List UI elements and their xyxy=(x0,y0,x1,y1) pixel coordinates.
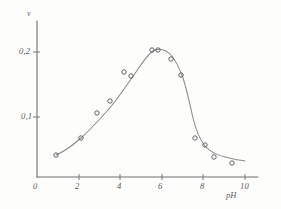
plot-canvas xyxy=(0,0,281,209)
data-point xyxy=(108,99,112,103)
x-tick-label-6: 6 xyxy=(158,181,162,191)
fitted-curve xyxy=(56,49,245,161)
ph-rate-profile-figure: v pH 0,2 0,1 0 2 4 6 8 10 xyxy=(0,0,281,209)
x-tick-label-4: 4 xyxy=(117,181,121,191)
data-point xyxy=(169,57,173,61)
data-point xyxy=(230,161,234,165)
data-point xyxy=(95,111,99,115)
y-tick-label-0-1: 0,1 xyxy=(21,111,32,121)
x-tick-label-2: 2 xyxy=(75,181,79,191)
x-tick-label-10: 10 xyxy=(240,181,249,191)
data-point xyxy=(122,70,126,74)
data-point xyxy=(212,155,216,159)
x-tick-label-0: 0 xyxy=(33,181,37,191)
data-point xyxy=(193,136,197,140)
x-axis-title: pH xyxy=(226,190,236,200)
y-axis-title: v xyxy=(27,9,31,18)
x-tick-label-8: 8 xyxy=(200,181,204,191)
y-tick-label-0-2: 0,2 xyxy=(19,46,30,56)
